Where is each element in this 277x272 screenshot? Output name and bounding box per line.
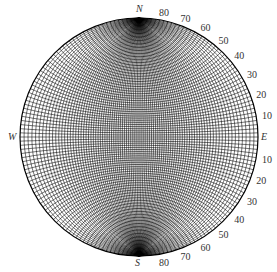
- angle-label: 50: [219, 35, 229, 46]
- angle-label: 60: [201, 242, 211, 253]
- angle-label: 80: [159, 7, 169, 18]
- north-label: N: [135, 3, 144, 14]
- angle-label: 80: [159, 257, 169, 268]
- south-label: S: [135, 257, 140, 268]
- angle-label: 30: [247, 196, 257, 207]
- angle-label: 40: [234, 50, 244, 61]
- angle-label: 70: [180, 13, 190, 24]
- angle-label: 70: [180, 251, 190, 262]
- net-lines: [20, 18, 258, 256]
- angle-label: 60: [201, 22, 211, 33]
- angle-label: 40: [234, 214, 244, 225]
- angle-label: 50: [219, 229, 229, 240]
- angle-label: 20: [256, 89, 266, 100]
- angle-label: 10: [262, 110, 272, 121]
- angle-label: 10: [262, 154, 272, 165]
- net-grid: [20, 18, 258, 256]
- angle-label: 20: [256, 175, 266, 186]
- west-label: W: [8, 131, 18, 142]
- east-label: E: [260, 131, 267, 142]
- angle-label: 30: [247, 69, 257, 80]
- stereonet: N S E W 80706050403020101020304050607080: [0, 0, 277, 272]
